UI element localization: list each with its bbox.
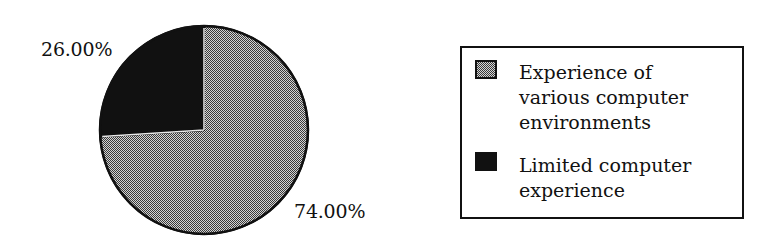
legend-line: experience (519, 178, 739, 203)
legend: Experience of various computer environme… (460, 46, 744, 219)
slice-label-experienced: 74.00% (294, 201, 365, 221)
legend-swatch-dark (475, 152, 497, 171)
legend-swatch-checker (475, 60, 497, 79)
legend-label-limited: Limited computer experience (519, 153, 739, 203)
legend-line: Limited computer (519, 153, 739, 178)
legend-line: various computer (519, 85, 739, 110)
slice-label-limited: 26.00% (41, 39, 112, 59)
pie-slice-limited (100, 26, 204, 137)
legend-line: Experience of (519, 60, 739, 85)
legend-line: environments (519, 110, 739, 135)
legend-label-experienced: Experience of various computer environme… (519, 60, 739, 135)
